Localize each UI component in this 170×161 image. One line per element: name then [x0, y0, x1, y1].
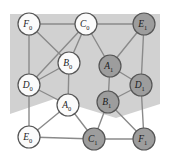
node-circle [18, 74, 40, 96]
graph-node-c1[interactable]: C1 [83, 128, 105, 150]
node-circle [83, 128, 105, 150]
graph-node-a1[interactable]: A1 [99, 55, 121, 77]
node-circle [58, 52, 80, 74]
node-circle [57, 94, 79, 116]
graph-node-b0[interactable]: B0 [58, 52, 80, 74]
graph-node-e1[interactable]: E1 [133, 13, 155, 35]
node-circle [97, 91, 119, 113]
graph-node-a0[interactable]: A0 [57, 94, 79, 116]
node-circle [133, 13, 155, 35]
node-circle [18, 13, 40, 35]
node-circle [130, 74, 152, 96]
graph-node-d1[interactable]: D1 [130, 74, 152, 96]
graph-node-c0[interactable]: C0 [75, 13, 97, 35]
graph-node-b1[interactable]: B1 [97, 91, 119, 113]
graph-node-e0[interactable]: E0 [18, 126, 40, 148]
node-circle [133, 128, 155, 150]
node-circle [75, 13, 97, 35]
graph-figure: F0C0E1B0A1D0D1A0B1E0C1F1 [0, 0, 170, 161]
graph-node-f1[interactable]: F1 [133, 128, 155, 150]
node-circle [18, 126, 40, 148]
graph-node-f0[interactable]: F0 [18, 13, 40, 35]
graph-canvas: F0C0E1B0A1D0D1A0B1E0C1F1 [0, 0, 170, 161]
node-circle [99, 55, 121, 77]
graph-node-d0[interactable]: D0 [18, 74, 40, 96]
